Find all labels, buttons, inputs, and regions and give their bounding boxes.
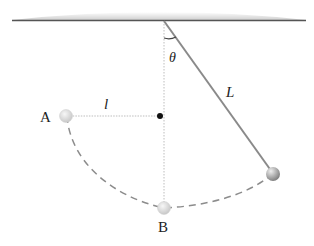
ceiling-surface	[12, 12, 306, 20]
label-angle-theta: θ	[169, 50, 176, 65]
pendulum-diagram: A B l L θ	[0, 0, 314, 246]
ceiling	[12, 12, 306, 21]
long-string	[164, 21, 272, 172]
label-point-b: B	[158, 219, 168, 235]
angle-arc	[164, 37, 176, 39]
peg	[157, 113, 163, 119]
bob-position-a	[60, 110, 73, 123]
bob-position-b	[158, 202, 171, 215]
bob-current	[266, 167, 280, 181]
swing-path	[67, 116, 270, 208]
label-short-length: l	[104, 96, 108, 112]
label-long-length: L	[225, 84, 234, 100]
label-point-a: A	[40, 109, 51, 125]
